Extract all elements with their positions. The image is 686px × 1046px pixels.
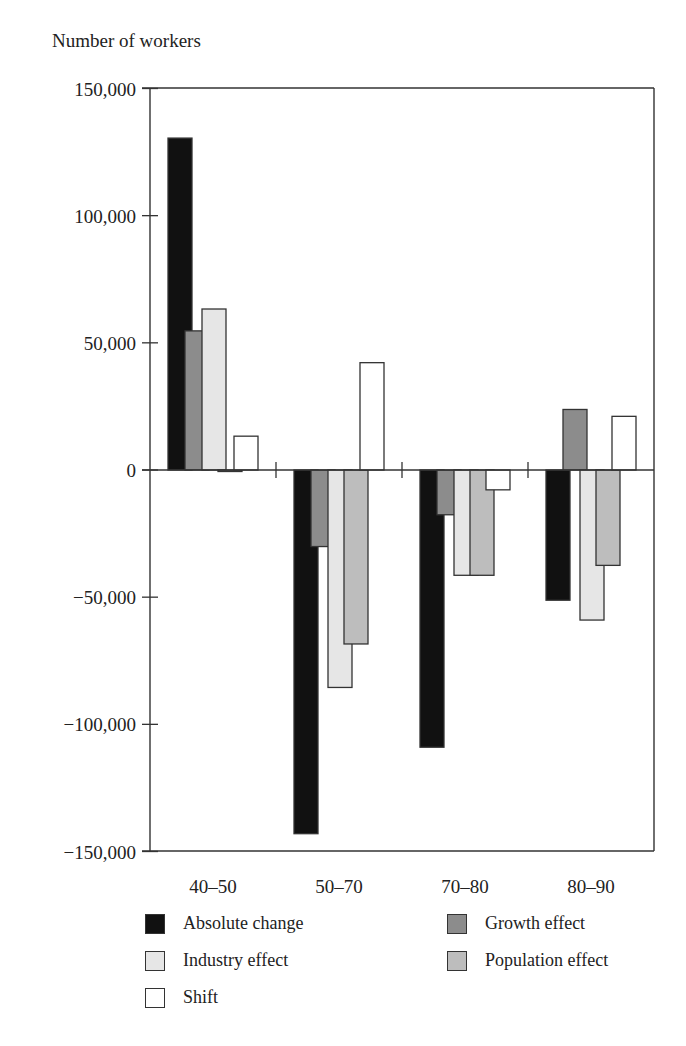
- bar-population-effect: [344, 470, 368, 644]
- y-tick-label: −100,000: [64, 714, 136, 735]
- bar-population-effect: [596, 470, 620, 565]
- x-tick-label: 40–50: [189, 876, 237, 897]
- y-tick-label: 0: [127, 460, 137, 481]
- y-tick-label: 150,000: [74, 79, 136, 100]
- bar-chart: 40–5050–7070–8080–90150,000100,00050,000…: [0, 0, 686, 900]
- bar-shift: [612, 416, 636, 470]
- legend-item-growth-effect: Growth effect: [447, 913, 585, 934]
- bar-shift: [486, 470, 510, 490]
- bar-absolute-change: [546, 470, 570, 600]
- bar-shift: [234, 436, 258, 470]
- legend-label: Shift: [183, 987, 218, 1008]
- bar-growth-effect: [563, 409, 587, 470]
- y-tick-label: 100,000: [74, 206, 136, 227]
- population-effect-swatch-icon: [447, 951, 467, 971]
- bar-industry-effect: [202, 309, 226, 470]
- shift-swatch-icon: [145, 988, 165, 1008]
- legend-label: Growth effect: [485, 913, 585, 934]
- legend-label: Industry effect: [183, 950, 288, 971]
- legend-label: Absolute change: [183, 913, 303, 934]
- growth-effect-swatch-icon: [447, 914, 467, 934]
- legend-item-absolute-change: Absolute change: [145, 913, 303, 934]
- legend-item-shift: Shift: [145, 987, 218, 1008]
- x-tick-label: 70–80: [441, 876, 489, 897]
- x-tick-label: 50–70: [315, 876, 363, 897]
- legend-item-population-effect: Population effect: [447, 950, 608, 971]
- absolute-change-swatch-icon: [145, 914, 165, 934]
- legend-item-industry-effect: Industry effect: [145, 950, 288, 971]
- x-tick-label: 80–90: [567, 876, 615, 897]
- bar-shift: [360, 363, 384, 470]
- y-tick-label: −50,000: [73, 587, 136, 608]
- y-tick-label: 50,000: [84, 333, 136, 354]
- industry-effect-swatch-icon: [145, 951, 165, 971]
- legend-label: Population effect: [485, 950, 608, 971]
- y-tick-label: −150,000: [64, 842, 136, 863]
